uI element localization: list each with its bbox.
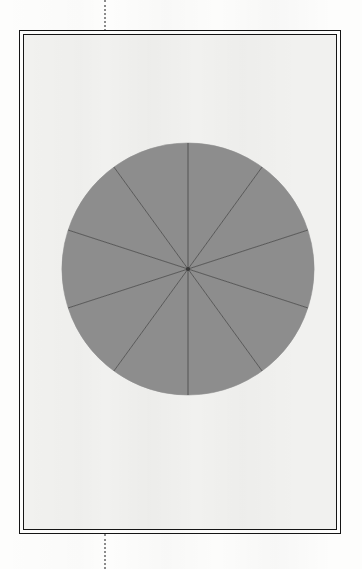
figure-page	[0, 0, 362, 569]
figure-outer-rule	[19, 30, 341, 534]
pie-center-hub	[186, 267, 190, 271]
pie-chart-svg	[24, 35, 337, 530]
pie-chart	[24, 35, 337, 530]
vertical-registration-line-bottom	[104, 534, 106, 569]
figure-inner-rule	[23, 34, 337, 530]
vertical-registration-line-top	[104, 0, 106, 31]
